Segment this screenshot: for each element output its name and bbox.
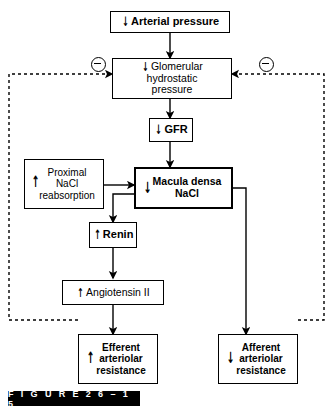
up-arrow-icon: ↑ <box>87 350 95 367</box>
node-efferent-arteriolar-resistance: ↑ Efferentarteriolarresistance <box>78 334 158 384</box>
node-efferent-arteriolar-resistance-text: Efferentarteriolarresistance <box>88 342 147 376</box>
down-arrow-icon: ↓ <box>156 123 163 138</box>
node-arterial-pressure-text: ↓Arterial pressure <box>119 15 221 28</box>
up-arrow-icon: ↑ <box>94 228 101 243</box>
node-macula-densa-nacl-text: Macula densaNaCl <box>144 176 224 200</box>
node-macula-densa-nacl: ↓ Macula densaNaCl <box>134 167 233 209</box>
down-arrow-icon: ↓ <box>227 350 235 367</box>
figure-diagram: ↓Arterial pressure ↓Glomerular hydrostat… <box>0 0 333 411</box>
down-arrow-icon: ↓ <box>144 180 152 197</box>
down-arrow-icon: ↓ <box>122 15 129 30</box>
node-renin: ↑Renin <box>89 222 137 248</box>
node-proximal-nacl-reabsorption: ↑ ProximalNaClreabsorption <box>24 159 104 209</box>
node-renin-text: ↑Renin <box>91 228 136 241</box>
node-glomerular-hydrostatic-pressure-text: ↓Glomerular hydrostaticpressure <box>113 61 231 96</box>
up-arrow-icon: ↑ <box>32 174 40 191</box>
node-gfr: ↓GFR <box>149 118 193 142</box>
figure-caption-bar: F I G U R E 2 6 – 1 5 <box>8 391 140 406</box>
negative-feedback-sign-left <box>91 57 106 72</box>
node-afferent-arteriolar-resistance-text: Afferentarteriolarresistance <box>228 342 287 376</box>
negative-feedback-sign-right <box>259 57 274 72</box>
node-proximal-nacl-reabsorption-text: ProximalNaClreabsorption <box>31 167 97 201</box>
node-angiotensin-ii: ↑Angiotensin II <box>62 280 164 305</box>
node-glomerular-hydrostatic-pressure: ↓Glomerular hydrostaticpressure <box>112 58 232 99</box>
node-angiotensin-ii-text: ↑Angiotensin II <box>74 287 151 299</box>
node-arterial-pressure: ↓Arterial pressure <box>110 11 230 33</box>
node-gfr-text: ↓GFR <box>152 123 189 136</box>
down-arrow-icon: ↓ <box>142 60 148 74</box>
up-arrow-icon: ↑ <box>77 286 83 300</box>
node-afferent-arteriolar-resistance: ↓ Afferentarteriolarresistance <box>218 334 298 384</box>
figure-caption-text: F I G U R E 2 6 – 1 5 <box>8 389 140 409</box>
